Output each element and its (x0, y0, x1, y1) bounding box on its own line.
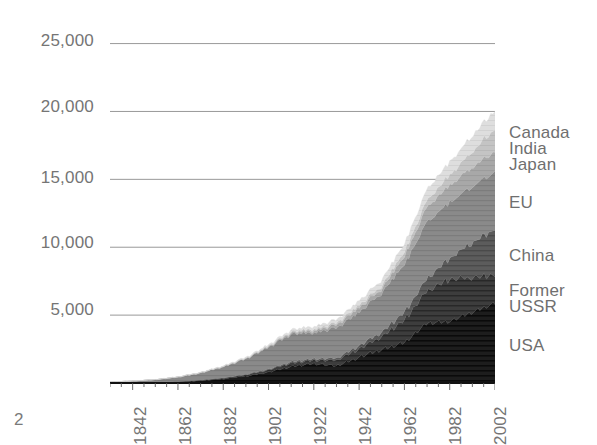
page-number: 2 (14, 410, 23, 430)
legend-label-china: China (509, 247, 554, 264)
legend-label-eu: EU (509, 194, 533, 211)
plot-area (110, 30, 495, 383)
y-axis-tick-25000: 25,000 (4, 31, 94, 51)
x-axis-tick-1962: 1962 (401, 385, 421, 445)
x-axis-tick-1922: 1922 (311, 385, 331, 445)
legend-label-former-ussr-line2: USSR (509, 298, 557, 315)
stacked-area-svg (110, 30, 495, 392)
x-axis-line-group (110, 383, 495, 390)
x-axis-tick-1942: 1942 (356, 385, 376, 445)
y-axis-tick-15000: 15,000 (4, 168, 94, 188)
y-axis-tick-20000: 20,000 (4, 97, 94, 117)
x-axis-tick-1842: 1842 (131, 385, 151, 445)
x-axis-tick-1982: 1982 (446, 385, 466, 445)
legend-label-japan: Japan (509, 156, 556, 173)
x-axis-tick-1902: 1902 (266, 385, 286, 445)
x-axis-tick-1862: 1862 (176, 385, 196, 445)
x-axis-tick-1882: 1882 (221, 385, 241, 445)
y-axis-tick-10000: 10,000 (4, 233, 94, 253)
x-axis-tick-2002: 2002 (491, 385, 511, 445)
y-axis-tick-5000: 5,000 (4, 300, 94, 320)
legend-label-usa: USA (509, 337, 545, 354)
